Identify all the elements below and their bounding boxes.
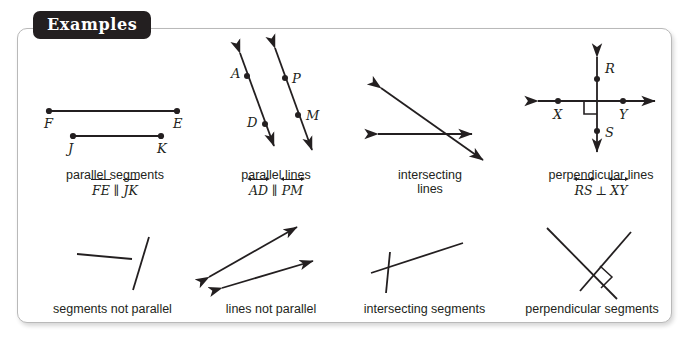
point-label-e: E bbox=[173, 117, 183, 130]
notation-right-xy: XY bbox=[609, 183, 628, 198]
point-label-r: R bbox=[605, 62, 615, 75]
parallel-symbol-1: ∥ bbox=[111, 183, 123, 198]
point-label-x: X bbox=[553, 108, 562, 121]
examples-figure-panel: Examples bbox=[0, 0, 692, 344]
point-label-s: S bbox=[605, 126, 614, 139]
point-label-f: F bbox=[44, 117, 53, 130]
caption-parallel-segments: parallel segments bbox=[40, 168, 190, 182]
point-label-d: D bbox=[247, 116, 257, 129]
examples-tab-label: Examples bbox=[33, 11, 151, 39]
perpendicular-symbol-1: ⊥ bbox=[594, 183, 610, 198]
notation-left-ad: AD bbox=[248, 183, 269, 198]
point-label-j: J bbox=[68, 142, 73, 155]
caption-segments-not-parallel: segments not parallel bbox=[30, 302, 195, 316]
point-label-m: M bbox=[306, 109, 319, 122]
point-label-a: A bbox=[231, 67, 240, 80]
caption-parallel-lines: parallel lines bbox=[201, 168, 351, 182]
caption-intersecting-lines-line2: lines bbox=[355, 182, 505, 196]
notation-parallel-lines: AD∥PM bbox=[201, 183, 351, 198]
notation-perpendicular-lines: RS⊥XY bbox=[521, 183, 681, 198]
notation-left-fe: FE bbox=[91, 183, 111, 198]
notation-right-jk: JK bbox=[123, 183, 139, 198]
point-label-k: K bbox=[157, 142, 167, 155]
parallel-symbol-2: ∥ bbox=[269, 183, 281, 198]
point-label-y: Y bbox=[619, 108, 628, 121]
caption-intersecting-segments: intersecting segments bbox=[337, 302, 512, 316]
caption-lines-not-parallel: lines not parallel bbox=[191, 302, 351, 316]
point-label-p: P bbox=[292, 72, 301, 85]
notation-left-rs: RS bbox=[574, 183, 594, 198]
notation-parallel-segments: FE∥JK bbox=[40, 183, 190, 198]
caption-perpendicular-lines: perpendicular lines bbox=[521, 168, 681, 182]
caption-intersecting-lines: intersecting bbox=[355, 168, 505, 182]
notation-right-pm: PM bbox=[281, 183, 304, 198]
caption-perpendicular-segments: perpendicular segments bbox=[502, 302, 682, 316]
